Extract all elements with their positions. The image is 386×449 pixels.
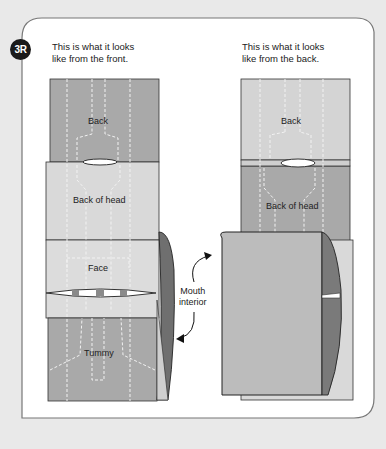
label-back-rear: Back [281, 116, 301, 126]
front-caption: This is what it looks like from the fron… [52, 41, 134, 65]
back-caption: This is what it looks like from the back… [242, 41, 324, 65]
front-caption-line-2: like from the front. [52, 53, 134, 65]
front-caption-line-1: This is what it looks [52, 41, 134, 53]
label-back-of-head-rear: Back of head [266, 201, 319, 211]
label-tummy: Tummy [84, 348, 114, 358]
label-back-of-head-front: Back of head [73, 195, 126, 205]
label-face: Face [88, 263, 108, 273]
diagram-artwork [0, 0, 386, 449]
label-back-front: Back [88, 116, 108, 126]
step-badge: 3R [10, 39, 31, 60]
back-caption-line-2: like from the back. [242, 53, 324, 65]
mouth-label-line-2: interior [179, 297, 207, 308]
diagram-canvas: 3R This is what it looks like from the f… [0, 0, 386, 449]
mouth-label-line-1: Mouth [179, 286, 207, 297]
mouth-interior-label: Mouth interior [179, 286, 207, 308]
back-caption-line-1: This is what it looks [242, 41, 324, 53]
